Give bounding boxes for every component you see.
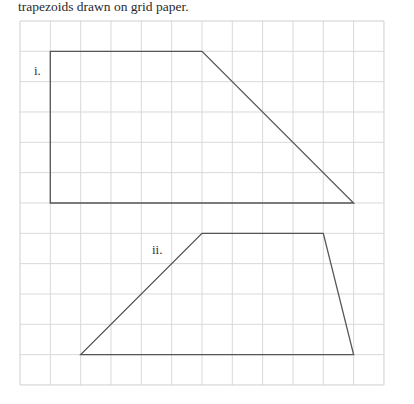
trapezoid-label: i. [34, 63, 41, 78]
grid-paper: i.ii. [0, 0, 414, 404]
trapezoid-label: ii. [152, 242, 162, 257]
trapezoids: i.ii. [34, 51, 354, 354]
